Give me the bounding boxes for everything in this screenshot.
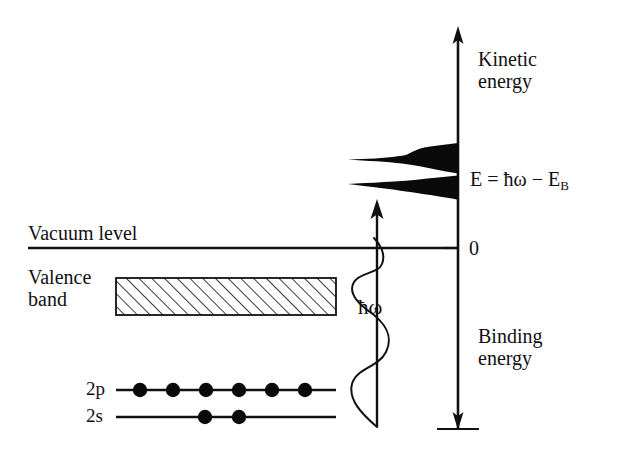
electron-dot <box>199 383 213 397</box>
binding-energy-label: Bindingenergy <box>478 325 542 370</box>
axis-zero-label: 0 <box>469 237 479 259</box>
valence-band-line2: band <box>28 288 67 310</box>
equation-prefix: E = <box>470 168 504 190</box>
electron-dot <box>232 383 246 397</box>
electron-dot <box>298 383 312 397</box>
photon-wave-squiggle <box>351 238 389 427</box>
kinetic-energy-line2: energy <box>478 70 532 92</box>
photon-energy-label: ħω <box>358 296 382 320</box>
energy-axis-group <box>437 26 479 430</box>
kinetic-energy-line1: Kinetic <box>478 48 537 70</box>
valence-band-hatch-fill <box>116 278 336 315</box>
valence-band-box <box>116 278 336 315</box>
core-level-2p-group <box>116 383 336 397</box>
spectrum-peak-core <box>348 176 458 200</box>
electron-dot <box>166 383 180 397</box>
photoemission-spectrum <box>348 143 458 200</box>
photoemission-equation-label: E = ħω − EB <box>470 168 569 193</box>
binding-energy-line2: energy <box>478 347 532 369</box>
photoemission-energy-diagram: Kineticenergy Bindingenergy E = ħω − EB … <box>0 0 619 455</box>
electron-dot <box>265 383 279 397</box>
equation-binding-subscript: B <box>560 178 569 193</box>
electron-dot <box>133 383 147 397</box>
equation-photon-term: ħω <box>504 168 527 190</box>
binding-energy-line1: Binding <box>478 325 542 347</box>
valence-band-label: Valenceband <box>28 266 91 311</box>
equation-minus: − <box>527 168 548 190</box>
valence-band-line1: Valence <box>28 266 91 288</box>
core-level-2s-label: 2s <box>86 405 103 426</box>
electron-dot <box>232 410 246 424</box>
kinetic-energy-label: Kineticenergy <box>478 48 537 93</box>
core-level-2p-label: 2p <box>86 378 105 399</box>
core-level-2s-group <box>116 410 336 424</box>
equation-binding-symbol: E <box>548 168 560 190</box>
vacuum-level-label: Vacuum level <box>28 222 137 244</box>
spectrum-peak-valence <box>348 143 458 174</box>
electron-dot <box>198 410 212 424</box>
